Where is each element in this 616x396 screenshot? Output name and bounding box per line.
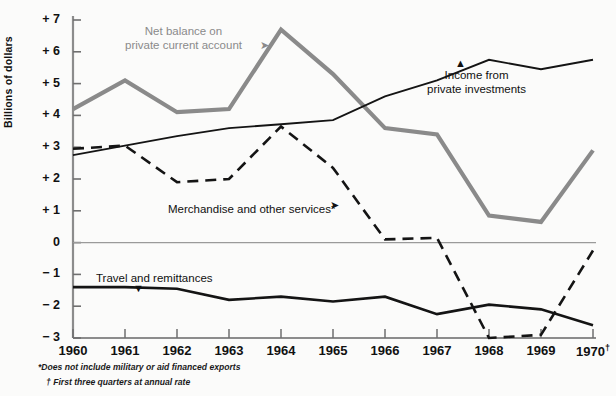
y-tick-label: + 1 — [18, 203, 60, 217]
x-tick-label: 1963 — [203, 343, 255, 358]
annotation-income-line2: private investments — [427, 83, 526, 95]
annotation-income: Income from private investments — [427, 68, 526, 97]
y-tick-label: − 2 — [18, 298, 60, 312]
x-tick-label: 1962 — [151, 343, 203, 358]
plot-area — [0, 0, 616, 396]
y-tick-label: + 7 — [18, 12, 60, 26]
series-line-3 — [73, 287, 593, 325]
y-tick-label: + 3 — [18, 139, 60, 153]
pointer-arrow-income-icon: ▲ — [455, 58, 466, 69]
pointer-arrow-travel-icon: ▼ — [133, 283, 144, 294]
annotation-travel-line1: Travel and remittances — [96, 272, 213, 284]
annotation-merchandise-line1: Merchandise and other services* — [168, 203, 335, 215]
x-tick-label: 1969 — [515, 343, 567, 358]
x-tick-label: 1961 — [99, 343, 151, 358]
y-tick-label: 0 — [18, 235, 60, 249]
annotation-net-balance-line2: private current account — [125, 39, 242, 51]
x-tick-label: 1970† — [567, 343, 616, 359]
pointer-arrow-net-balance-icon: ➤ — [260, 40, 269, 51]
y-tick-label: + 5 — [18, 76, 60, 90]
annotation-net-balance: Net balance on private current account — [125, 24, 242, 53]
y-axis-title: Billions of dollars — [2, 36, 14, 128]
x-tick-label: 1965 — [307, 343, 359, 358]
x-tick-label: 1967 — [411, 343, 463, 358]
footnote-asterisk: *Does not include military or aid financ… — [38, 362, 240, 372]
y-tick-label: + 2 — [18, 171, 60, 185]
chart-container: Billions of dollars Net balance on priva… — [0, 0, 616, 396]
series-line-0 — [73, 30, 593, 222]
x-tick-label: 1964 — [255, 343, 307, 358]
annotation-net-balance-line1: Net balance on — [145, 25, 222, 37]
annotation-merchandise: Merchandise and other services* — [168, 202, 335, 216]
footnote-dagger: † First three quarters at annual rate — [46, 377, 190, 387]
x-tick-label: 1960 — [47, 343, 99, 358]
y-tick-label: − 3 — [18, 330, 60, 344]
y-tick-label: + 4 — [18, 107, 60, 121]
pointer-arrow-merchandise-icon: ➤ — [330, 200, 339, 211]
annotation-travel: Travel and remittances — [96, 271, 213, 285]
y-tick-label: + 6 — [18, 44, 60, 58]
x-tick-label: 1966 — [359, 343, 411, 358]
y-tick-label: − 1 — [18, 266, 60, 280]
x-tick-label: 1968 — [463, 343, 515, 358]
annotation-income-line1: Income from — [445, 69, 509, 81]
